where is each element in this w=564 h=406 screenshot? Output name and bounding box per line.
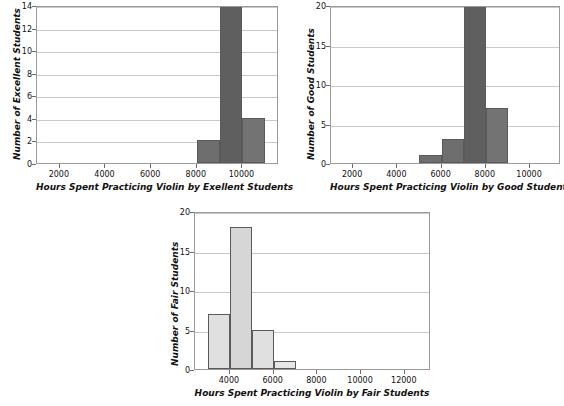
y-axis-label: Number of Fair Students — [170, 242, 180, 366]
gridline — [195, 213, 429, 214]
y-tick-mark — [190, 331, 194, 332]
x-tick-label: 4000 — [219, 376, 239, 385]
y-tick-mark — [190, 291, 194, 292]
x-tick-label: 6000 — [262, 376, 282, 385]
x-tick-mark — [360, 370, 361, 374]
histogram-bar — [208, 314, 230, 369]
histogram-bar — [252, 330, 274, 370]
x-tick-mark — [316, 370, 317, 374]
histogram-fair: 051015204000600080001000012000Hours Spen… — [0, 0, 564, 406]
histogram-bar — [274, 361, 296, 369]
x-tick-mark — [229, 370, 230, 374]
x-tick-label: 8000 — [306, 376, 326, 385]
y-tick-label: 20 — [170, 208, 190, 217]
x-tick-label: 12000 — [391, 376, 416, 385]
y-tick-label: 0 — [170, 366, 190, 375]
x-tick-label: 10000 — [347, 376, 372, 385]
plot-area-fair — [194, 212, 430, 370]
y-tick-mark — [190, 370, 194, 371]
y-tick-mark — [190, 212, 194, 213]
x-tick-mark — [273, 370, 274, 374]
x-axis-label: Hours Spent Practicing Violin by Fair St… — [194, 388, 430, 398]
x-tick-mark — [404, 370, 405, 374]
histogram-bar — [230, 227, 252, 369]
y-tick-mark — [190, 252, 194, 253]
